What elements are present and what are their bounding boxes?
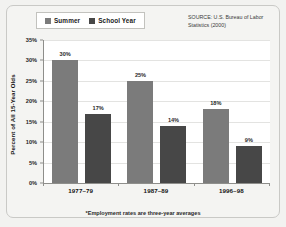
plot-area: 30%17%25%14%18%9% <box>43 40 270 184</box>
y-axis-tick-label: 15% <box>26 119 37 125</box>
bar-value-label: 18% <box>210 100 221 106</box>
y-axis-tick-label: 0% <box>29 180 37 186</box>
legend-swatch-icon <box>45 18 51 24</box>
bar-group: 30%17% <box>44 40 119 183</box>
y-axis-tick-label: 30% <box>26 57 37 63</box>
source-note: SOURCE: U.S. Bureau of Labor Statistics … <box>188 13 274 29</box>
y-axis-tick-label: 25% <box>26 78 37 84</box>
legend-item-school-year: School Year <box>89 17 136 24</box>
chart-legend: Summer School Year <box>36 12 145 29</box>
y-axis-tick-label: 35% <box>26 37 37 43</box>
y-axis-ticks: 0%5%10%15%20%25%30%35% <box>20 40 40 183</box>
x-axis-tick-mark <box>194 183 195 186</box>
bar[interactable]: 14% <box>160 126 186 183</box>
bar-value-label: 17% <box>93 105 104 111</box>
bar[interactable]: 17% <box>85 114 111 183</box>
x-axis-tick-mark <box>118 183 119 186</box>
x-axis-tick-label: 1987–89 <box>118 187 193 194</box>
x-axis-tick-label: 1996–98 <box>194 187 269 194</box>
legend-label-summer: Summer <box>54 17 80 24</box>
x-axis-tick-label: 1977–79 <box>43 187 118 194</box>
plot-wrapper: 0%5%10%15%20%25%30%35% 30%17%25%14%18%9%… <box>20 40 272 190</box>
bar-group: 25%14% <box>119 40 194 183</box>
y-axis-tick-label: 5% <box>29 160 37 166</box>
y-axis-tick-label: 10% <box>26 139 37 145</box>
bar-value-label: 30% <box>60 51 71 57</box>
bar-groups: 30%17%25%14%18%9% <box>44 40 270 183</box>
legend-label-school-year: School Year <box>98 17 136 24</box>
bar[interactable]: 25% <box>127 81 153 183</box>
x-axis-tick-mark <box>269 183 270 186</box>
x-axis-labels: 1977–791987–891996–98 <box>43 187 269 194</box>
legend-swatch-icon <box>89 18 95 24</box>
bar[interactable]: 30% <box>52 60 78 183</box>
bar-value-label: 9% <box>245 137 253 143</box>
y-axis-tick-label: 20% <box>26 98 37 104</box>
figure-container: Summer School Year SOURCE: U.S. Bureau o… <box>0 0 286 227</box>
y-axis-title: Percent of All 15-Year Olds <box>6 48 18 180</box>
bar[interactable]: 9% <box>236 146 262 183</box>
bar-value-label: 14% <box>168 117 179 123</box>
chart-footnote: *Employment rates are three-year average… <box>0 210 286 216</box>
bar-value-label: 25% <box>135 72 146 78</box>
bar-group: 18%9% <box>195 40 270 183</box>
legend-item-summer: Summer <box>45 17 80 24</box>
y-axis-title-text: Percent of All 15-Year Olds <box>9 74 16 154</box>
bar[interactable]: 18% <box>203 109 229 183</box>
x-axis-tick-mark <box>43 183 44 186</box>
